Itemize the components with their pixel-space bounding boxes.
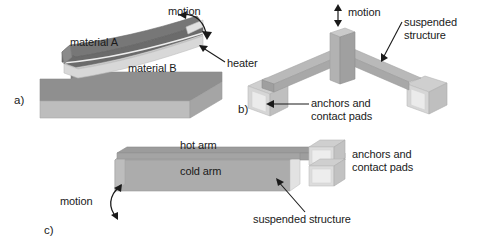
panel-c-suspended-label: suspended structure: [253, 213, 351, 225]
mems-actuator-figure: motion material A material B heater a): [0, 0, 479, 250]
panel-c-tag: c): [44, 224, 54, 236]
panel-c-cold-arm-label: cold arm: [180, 165, 221, 177]
panel-c-hot-arm-label: hot arm: [180, 139, 217, 151]
panel-c-motion-label: motion: [60, 195, 92, 207]
panel-c-graphics: [0, 0, 479, 250]
panel-c-anchors-label-line1: anchors and: [352, 148, 411, 160]
panel-c-motion-arrowhead-bottom: [111, 212, 118, 220]
panel-c-anchors-label-line2: contact pads: [352, 161, 413, 173]
panel-c-lower-contact-pad: [312, 169, 331, 183]
